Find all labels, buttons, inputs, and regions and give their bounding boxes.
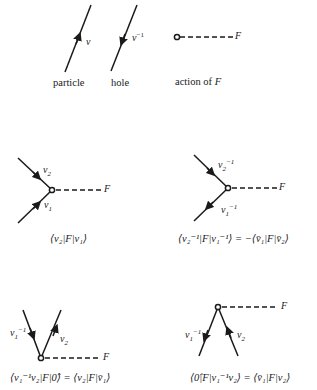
label-v1-inverse: v1−1 — [10, 328, 26, 338]
label-F: F — [281, 301, 287, 311]
label-F: F — [104, 184, 110, 194]
action-caption-text: action of — [175, 76, 215, 87]
caption-particle-scattering: ⟨v₂|F|v₁⟩ — [50, 234, 87, 245]
operator-line — [174, 34, 233, 39]
label-F: F — [103, 352, 109, 362]
label-v2: v2 — [43, 165, 51, 175]
hole-label: v−1 — [132, 33, 144, 43]
particle-caption: particle — [53, 78, 84, 89]
caption-hole-scattering: ⟨v₂⁻¹|F|v₁⁻¹⟩ = −⟨v̄₁|F|v̄₂⟩ — [178, 234, 289, 245]
caption-pair-creation: ⟨v₁⁻¹v₂|F|0̂⟩ = ⟨v₂|F|v̄₁⟩ — [10, 373, 110, 384]
hole-caption: hole — [111, 78, 129, 89]
label-v2: v2 — [60, 334, 68, 344]
hole-superscript: −1 — [136, 31, 143, 39]
diagram-particle-scattering — [18, 158, 102, 223]
operator-label: F — [235, 31, 241, 41]
caption-pair-annihilation: ⟨0̂|F|v₁⁻¹v₂⟩ = ⟨v̄₁|F|v₂⟩ — [190, 373, 290, 384]
label-F: F — [279, 182, 285, 192]
label-v2-inverse: v2−1 — [218, 160, 234, 170]
particle-label: v — [86, 37, 90, 47]
action-caption-symbol: F — [215, 76, 221, 87]
action-caption: action of F — [175, 77, 221, 88]
label-v1-inverse: v1−1 — [221, 205, 237, 215]
label-v1: v1 — [44, 200, 52, 210]
label-v1-inverse: v1−1 — [185, 330, 201, 340]
diagram-canvas — [0, 0, 317, 390]
label-v2: v2 — [237, 330, 245, 340]
